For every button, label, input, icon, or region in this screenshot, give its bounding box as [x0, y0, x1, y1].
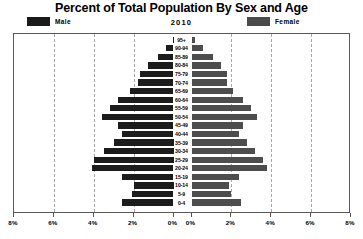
- pyramid-row: 5-9: [14, 191, 349, 197]
- x-axis-tick: [133, 213, 134, 217]
- bar-female: [192, 114, 258, 120]
- bar-male: [140, 71, 174, 77]
- bar-female: [192, 105, 252, 111]
- x-axis-tick-label: 0%: [186, 219, 195, 226]
- x-axis-tick: [173, 213, 174, 217]
- legend-label-female: Female: [275, 18, 300, 25]
- bar-male: [138, 79, 174, 85]
- chart-title: Percent of Total Population By Sex and A…: [0, 1, 363, 15]
- x-axis-tick-label: 4%: [88, 219, 97, 226]
- bar-male: [118, 122, 174, 128]
- pyramid-row: 50-54: [14, 114, 349, 120]
- pyramid-row: 25-29: [14, 157, 349, 163]
- bar-female: [192, 174, 240, 180]
- bar-female: [192, 148, 256, 154]
- bar-male: [148, 62, 174, 68]
- bar-male: [122, 199, 174, 205]
- bar-female: [192, 88, 234, 94]
- pyramid-row: 45-49: [14, 122, 349, 128]
- bar-female: [192, 131, 240, 137]
- bar-female: [192, 71, 228, 77]
- x-axis-tick-label: 6%: [48, 219, 57, 226]
- age-group-label: 15-19: [174, 174, 189, 180]
- bar-female: [192, 37, 196, 43]
- bar-female: [192, 139, 248, 145]
- pyramid-row: 20-24: [14, 165, 349, 171]
- bar-male: [173, 37, 174, 43]
- age-group-label: 55-59: [174, 105, 189, 111]
- pyramid-row: 60-64: [14, 97, 349, 103]
- age-group-label: 0-4: [177, 199, 186, 205]
- bar-female: [192, 54, 214, 60]
- age-group-label: 85-89: [174, 54, 189, 60]
- pyramid-row: 90-94: [14, 45, 349, 51]
- bar-male: [122, 131, 174, 137]
- pyramid-row: 65-69: [14, 88, 349, 94]
- bar-male: [118, 97, 174, 103]
- x-axis-tick: [230, 213, 231, 217]
- age-group-label: 30-34: [174, 148, 189, 154]
- age-group-label: 20-24: [174, 165, 189, 171]
- pyramid-row: 10-14: [14, 182, 349, 188]
- x-axis-tick: [350, 213, 351, 217]
- age-group-label: 50-54: [174, 114, 189, 120]
- population-pyramid-chart: Percent of Total Population By Sex and A…: [0, 0, 363, 239]
- bar-male: [132, 191, 174, 197]
- age-group-label: 95+: [176, 37, 187, 43]
- bar-male: [166, 45, 174, 51]
- bar-female: [192, 182, 230, 188]
- pyramid-row: 95+: [14, 37, 349, 43]
- age-group-label: 70-74: [174, 79, 189, 85]
- bar-male: [130, 88, 174, 94]
- pyramid-row: 35-39: [14, 139, 349, 145]
- age-group-label: 65-69: [174, 88, 189, 94]
- x-axis-tick: [53, 213, 54, 217]
- age-group-label: 90-94: [174, 45, 189, 51]
- bar-male: [114, 139, 174, 145]
- x-axis-tick: [93, 213, 94, 217]
- bar-female: [192, 62, 222, 68]
- x-axis-tick-label: 0%: [168, 219, 177, 226]
- chart-subtitle-year: 2010: [0, 18, 363, 27]
- pyramid-row: 15-19: [14, 174, 349, 180]
- bar-male: [110, 105, 174, 111]
- legend-item-female: Female: [247, 17, 300, 26]
- age-group-label: 40-44: [174, 131, 189, 137]
- legend-swatch-female-icon: [247, 17, 270, 26]
- pyramid-row: 80-84: [14, 62, 349, 68]
- bar-female: [192, 165, 268, 171]
- plot-area: 95+90-9485-8980-8475-7970-7465-6960-6455…: [13, 33, 350, 213]
- bar-male: [158, 54, 174, 60]
- age-group-label: 10-14: [174, 182, 189, 188]
- x-axis-tick-label: 2%: [128, 219, 137, 226]
- bar-male: [102, 114, 174, 120]
- pyramid-row: 85-89: [14, 54, 349, 60]
- bar-female: [192, 122, 244, 128]
- pyramid-row: 40-44: [14, 131, 349, 137]
- pyramid-row: 55-59: [14, 105, 349, 111]
- bar-male: [104, 148, 174, 154]
- bar-rows: 95+90-9485-8980-8475-7970-7465-6960-6455…: [14, 34, 349, 212]
- age-group-label: 5-9: [177, 191, 186, 197]
- x-axis-tick-label: 8%: [8, 219, 17, 226]
- pyramid-row: 70-74: [14, 79, 349, 85]
- x-axis-tick: [191, 213, 192, 217]
- pyramid-row: 30-34: [14, 148, 349, 154]
- bar-male: [122, 174, 174, 180]
- bar-male: [92, 165, 174, 171]
- x-axis: 8%6%4%2%0%0%2%4%6%8%: [13, 213, 350, 239]
- pyramid-row: 75-79: [14, 71, 349, 77]
- age-group-label: 60-64: [174, 97, 189, 103]
- bar-female: [192, 199, 242, 205]
- x-axis-tick: [270, 213, 271, 217]
- bar-female: [192, 191, 232, 197]
- bar-female: [192, 157, 264, 163]
- bar-female: [192, 97, 244, 103]
- age-group-label: 75-79: [174, 71, 189, 77]
- x-axis-tick-label: 4%: [266, 219, 275, 226]
- bar-male: [134, 182, 174, 188]
- x-axis-tick-label: 6%: [305, 219, 314, 226]
- bar-female: [192, 45, 204, 51]
- x-axis-tick-label: 8%: [345, 219, 354, 226]
- pyramid-row: 0-4: [14, 199, 349, 205]
